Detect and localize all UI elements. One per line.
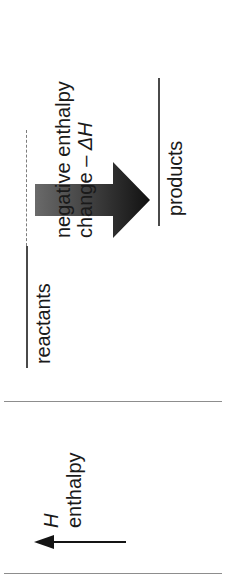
products-level-line — [158, 78, 160, 226]
enthalpy-axis-rotated-group: H enthalpy — [0, 412, 226, 562]
enthalpy-axis-word: enthalpy — [63, 452, 86, 528]
reactants-level-line — [26, 246, 28, 368]
scan-separator-rule-middle — [4, 401, 222, 402]
enthalpy-change-line-2-prefix: change – — [74, 150, 96, 238]
reactants-label: reactants — [32, 284, 55, 364]
enthalpy-axis: H enthalpy — [0, 412, 226, 562]
enthalpy-axis-arrow-icon — [34, 534, 126, 550]
delta-h-symbol: ΔH — [74, 122, 96, 150]
reactants-level-projection-dashed — [26, 130, 27, 246]
scan-separator-rule-bottom — [4, 573, 222, 574]
diagram-rotated-group: reactants products negative en — [0, 6, 226, 386]
enthalpy-axis-symbol: H — [40, 452, 63, 528]
enthalpy-diagram-figure: reactants products negative en — [0, 0, 226, 582]
enthalpy-axis-label: H enthalpy — [40, 452, 86, 528]
products-label: products — [164, 141, 187, 216]
